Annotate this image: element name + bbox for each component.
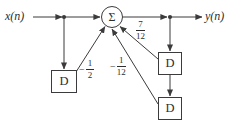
minus-sign: − bbox=[110, 62, 116, 71]
minus-sign: − bbox=[79, 65, 85, 74]
delay-block-output-2: D bbox=[158, 97, 182, 120]
delay-block-input: D bbox=[51, 70, 77, 93]
delay-block-label: D bbox=[165, 57, 174, 70]
output-junction-dot bbox=[168, 15, 172, 19]
coefficient-seven-twelfths: 7 12 bbox=[136, 20, 145, 41]
summation-node: Σ bbox=[101, 6, 123, 28]
delay-block-output-1: D bbox=[158, 52, 182, 75]
fraction: 1 2 bbox=[86, 59, 95, 80]
fraction: 1 12 bbox=[117, 56, 126, 77]
coefficient-minus-one-twelfth: − 1 12 bbox=[110, 56, 126, 77]
fraction: 7 12 bbox=[136, 20, 145, 41]
delay-block-label: D bbox=[165, 102, 174, 115]
signal-flow-diagram: x(n) y(n) Σ D D D − 1 2 − 1 12 7 12 bbox=[0, 0, 232, 128]
delay-block-label: D bbox=[59, 75, 68, 88]
input-signal-label: x(n) bbox=[5, 10, 24, 23]
coefficient-minus-one-half: − 1 2 bbox=[79, 59, 94, 80]
output-signal-label: y(n) bbox=[205, 10, 224, 23]
sigma-symbol: Σ bbox=[109, 11, 116, 23]
input-junction-dot bbox=[62, 15, 66, 19]
